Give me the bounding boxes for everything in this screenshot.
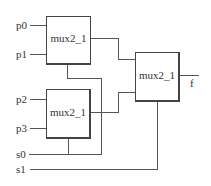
mux-a-label: mux2_1: [50, 32, 86, 44]
circuit-diagram: mux2_1 mux2_1 mux2_1 p0 p1 p2 p3 s0 s1 f: [0, 0, 211, 186]
label-f: f: [190, 77, 194, 89]
label-p2: p2: [16, 93, 27, 105]
label-s1: s1: [16, 163, 26, 175]
wire-mux-b-out: [90, 93, 135, 113]
wire-mux-a-out: [91, 39, 135, 60]
label-p0: p0: [16, 19, 28, 31]
label-s0: s0: [16, 148, 26, 160]
mux-c-label: mux2_1: [139, 69, 175, 81]
mux-b-label: mux2_1: [50, 106, 86, 118]
label-p1: p1: [16, 48, 27, 60]
label-p3: p3: [16, 122, 28, 134]
